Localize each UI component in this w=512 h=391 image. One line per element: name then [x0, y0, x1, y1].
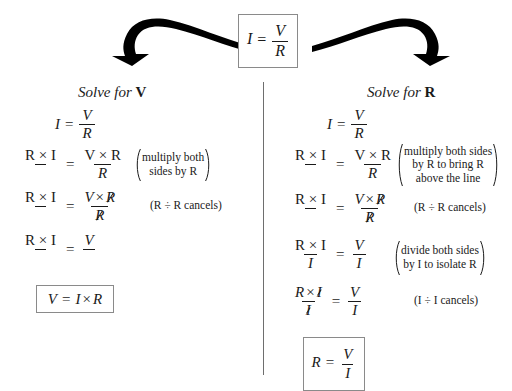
equation-v-step-4: R × I = V: [20, 233, 99, 267]
v-step-2-lhs-den: [35, 164, 47, 181]
r-step-5-lhs-den: I: [302, 301, 315, 318]
v-step-2-equals: =: [61, 156, 79, 173]
arrow-to-left-column-icon: [104, 4, 250, 66]
result-r-equals: =: [321, 354, 339, 370]
r-step-4-equals: =: [331, 246, 349, 263]
r-step-3-rhs-den: R: [361, 208, 378, 225]
result-v-formula: V=I×R: [48, 291, 102, 308]
open-paren-icon: [396, 143, 403, 187]
v-step-3-lhs-den: [35, 206, 47, 223]
heading-solve-for-r-variable: R: [425, 84, 436, 100]
r-step-3-lhs-den: [305, 208, 317, 225]
equation-v-step-2: R × I = V × R R: [20, 148, 126, 182]
v-step-4-lhs-num: R × I: [21, 233, 60, 249]
r-step-2-lhs-num: R × I: [291, 148, 330, 164]
r-step-5-rhs-den: I: [348, 301, 361, 318]
source-formula-equals: =: [252, 31, 271, 48]
heading-solve-for-r-prefix: Solve for: [367, 84, 421, 100]
note-r-step-4-text: divide both sides by I to isolate R: [400, 244, 480, 271]
v-step-1-num: V: [79, 108, 94, 124]
source-formula-denominator: R: [272, 41, 288, 59]
close-paren-icon: [493, 143, 500, 187]
v-step-3-rhs-den: R: [91, 206, 108, 223]
v-step-2-rhs-num: V × R: [80, 148, 125, 164]
r-step-1-equals: =: [332, 116, 350, 133]
note-v-step-2-text: multiply both sides by R: [141, 151, 205, 178]
source-formula-box: I= V R: [238, 14, 298, 68]
note-r-step-3-text: (R ÷ R cancels): [414, 201, 486, 213]
r-step-2-lhs-den: [305, 164, 317, 181]
v-step-1-den: R: [79, 124, 94, 141]
note-v-step-3-text: (R ÷ R cancels): [150, 199, 222, 211]
r-step-5-rhs-num: V: [346, 285, 363, 301]
heading-solve-for-v-variable: V: [136, 84, 147, 100]
v-step-2-rhs-den: R: [94, 164, 111, 181]
open-paren-icon: [134, 148, 141, 182]
r-step-3-equals: =: [331, 200, 349, 217]
note-r-step-2-text: multiply both sides by R to bring R abov…: [403, 145, 493, 186]
v-step-4-rhs-num: V: [80, 233, 97, 249]
equation-r-step-2: R × I = V × R R: [290, 148, 396, 182]
r-step-2-rhs-num: V × R: [350, 148, 395, 164]
r-step-1-num: V: [351, 108, 366, 124]
note-r-step-2: multiply both sides by R to bring R abov…: [396, 143, 500, 187]
result-r-lhs: R: [312, 354, 321, 370]
equation-v-step-1: I = V R: [55, 108, 96, 142]
result-r-box: R= V I: [303, 337, 365, 391]
v-step-1-equals: =: [60, 116, 78, 133]
note-v-step-2: multiply both sides by R: [134, 148, 212, 182]
r-step-1-den: R: [351, 124, 366, 141]
r-step-4-lhs-num: R × I: [291, 238, 330, 254]
note-v-step-3: (R ÷ R cancels): [150, 199, 222, 211]
note-r-step-4-line-2: by I to isolate R: [403, 258, 476, 270]
note-r-step-2-line-1: multiply both sides: [404, 145, 492, 157]
r-step-4-rhs-num: V: [350, 238, 367, 254]
note-r-step-2-line-3: above the line: [416, 172, 481, 184]
heading-solve-for-v-prefix: Solve for: [78, 84, 132, 100]
r-step-3-lhs-num: R × I: [291, 192, 330, 208]
heading-solve-for-v: Solve for V: [78, 84, 146, 101]
result-v-box: V=I×R: [36, 285, 114, 313]
note-r-step-4: divide both sides by I to isolate R: [393, 240, 487, 276]
v-step-4-lhs-den: [35, 249, 47, 266]
source-formula: I= V R: [247, 23, 289, 59]
note-r-step-2-line-2: by R to bring R: [412, 158, 484, 170]
result-r-formula: R= V I: [312, 347, 357, 381]
v-step-3-lhs-num: R × I: [21, 190, 60, 206]
equation-r-step-4: R × I I = V I: [290, 238, 369, 272]
heading-solve-for-r: Solve for R: [367, 84, 435, 101]
r-step-3-rhs-num: V×R: [350, 192, 389, 208]
note-r-step-5: (I ÷ I cancels): [414, 294, 478, 306]
equation-r-step-5: R×I I = V I: [290, 285, 364, 319]
note-r-step-3: (R ÷ R cancels): [414, 201, 486, 213]
v-step-3-rhs-num: V×R: [80, 190, 119, 206]
note-v-step-2-line-2: sides by R: [149, 165, 197, 177]
source-formula-numerator: V: [272, 23, 288, 40]
r-step-5-equals: =: [327, 293, 345, 310]
note-v-step-2-line-1: multiply both: [142, 151, 204, 163]
v-step-3-equals: =: [61, 198, 79, 215]
result-r-num: V: [340, 347, 355, 363]
equation-r-step-3: R × I = V×R R: [290, 192, 390, 226]
r-step-2-rhs-den: R: [364, 164, 381, 181]
open-paren-icon: [393, 240, 400, 276]
arrow-to-right-column-icon: [312, 4, 458, 66]
note-r-step-5-text: (I ÷ I cancels): [414, 294, 478, 306]
column-divider: [263, 82, 264, 375]
v-step-4-equals: =: [61, 241, 79, 258]
equation-v-step-3: R × I = V×R R: [20, 190, 120, 224]
v-step-2-lhs-num: R × I: [21, 148, 60, 164]
close-paren-icon: [480, 240, 487, 276]
note-r-step-4-line-1: divide both sides: [401, 244, 479, 256]
result-r-den: I: [342, 364, 353, 381]
r-step-4-rhs-den: I: [353, 254, 366, 271]
r-step-2-equals: =: [331, 156, 349, 173]
close-paren-icon: [205, 148, 212, 182]
r-step-5-lhs-num: R×I: [291, 285, 326, 301]
equation-r-step-1: I = V R: [327, 108, 368, 142]
v-step-4-rhs-den: [83, 249, 95, 266]
r-step-4-lhs-den: I: [304, 254, 317, 271]
